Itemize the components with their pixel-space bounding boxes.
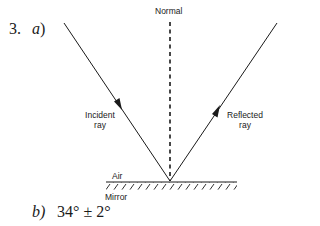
reflected-ray — [170, 23, 277, 181]
reflected-ray-label: Reflected ray — [222, 110, 268, 130]
air-label: Air — [112, 171, 122, 181]
mirror-label: Mirror — [105, 192, 127, 202]
incident-label-line2: ray — [80, 120, 120, 130]
part-b-label: b) — [32, 203, 45, 221]
part-b-answer: 34° ± 2° — [57, 203, 111, 221]
incident-label-line1: Incident — [80, 110, 120, 120]
reflected-arrow-icon — [212, 105, 220, 118]
normal-label: Normal — [155, 6, 182, 16]
mirror-hatching — [106, 183, 237, 190]
reflected-label-line1: Reflected — [222, 110, 268, 120]
reflected-label-line2: ray — [222, 120, 268, 130]
incident-ray-label: Incident ray — [80, 110, 120, 130]
